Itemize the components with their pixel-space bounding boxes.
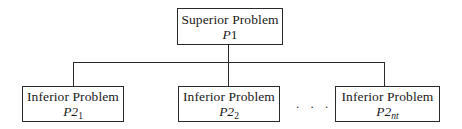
inferior-problem-node-2: Inferior Problem P22: [178, 86, 280, 122]
superior-problem-node: Superior Problem P1: [177, 8, 283, 45]
node-title: Inferior Problem: [342, 89, 434, 104]
node-title: Inferior Problem: [27, 89, 119, 104]
node-label: P1: [223, 27, 238, 42]
child-1-connector: [73, 62, 74, 86]
node-label: P2nt: [376, 104, 398, 119]
node-title: Superior Problem: [181, 12, 278, 27]
ellipsis: . . .: [296, 96, 332, 112]
root-connector-vertical: [228, 44, 229, 86]
node-label: P21: [63, 104, 83, 119]
node-title: Inferior Problem: [183, 89, 275, 104]
node-label: P22: [219, 104, 239, 119]
inferior-problem-node-1: Inferior Problem P21: [22, 86, 124, 122]
inferior-problem-node-nt: Inferior Problem P2nt: [335, 86, 440, 122]
horizontal-connector: [73, 62, 385, 63]
child-3-connector: [384, 62, 385, 86]
